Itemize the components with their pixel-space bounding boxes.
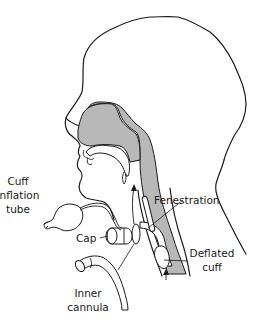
cap-end bbox=[107, 228, 117, 244]
neck-back-outline bbox=[216, 160, 246, 254]
label-inner-cannula-2: cannula bbox=[67, 301, 109, 313]
label-cap: Cap bbox=[76, 232, 97, 244]
label-cuff-inflation-tube-1: Cuff bbox=[7, 175, 29, 187]
inner-cannula-leader bbox=[118, 244, 134, 270]
airflow-arrowhead bbox=[131, 184, 137, 191]
label-fenestration: Fenestration bbox=[154, 194, 220, 206]
label-deflated-cuff-1: Deflated bbox=[190, 247, 235, 259]
label-inner-cannula-1: Inner bbox=[74, 287, 102, 299]
flange bbox=[132, 224, 140, 244]
label-deflated-cuff-2: cuff bbox=[202, 261, 222, 273]
pilot-balloon bbox=[44, 204, 83, 231]
label-cuff-inflation-tube-3: tube bbox=[6, 203, 30, 215]
airflow-arrow bbox=[133, 188, 135, 224]
tracheostomy-diagram: Cuff inflation tube Cap Fenestration Def… bbox=[0, 0, 266, 319]
deflated-cuff bbox=[155, 246, 170, 269]
tongue bbox=[86, 145, 130, 176]
label-cuff-inflation-tube-2: inflation bbox=[0, 189, 39, 201]
